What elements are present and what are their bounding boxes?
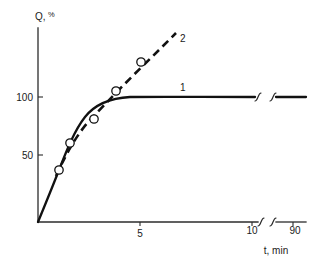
data-point-marker [66,139,74,147]
y-tick-label-50: 50 [22,150,34,161]
curve-1-label: 1 [180,82,186,93]
data-point-marker [112,87,120,95]
y-axis-title: Q, [35,11,46,22]
y-axis-unit: % [48,10,55,19]
x-axis-break-left-icon [258,218,264,226]
curve-1-path [38,97,255,222]
x-tick-label-10: 10 [246,225,258,236]
y-tick-label-100: 100 [16,92,33,103]
x-axis-break-right-icon [270,218,276,226]
curve-2-path [56,33,176,176]
curve-2-label: 2 [180,33,186,44]
chart-svg: Q, % 100 50 5 10 90 t, min 1 2 [0,0,327,264]
x-axis-title: t, min [264,245,288,256]
data-point-marker [55,166,63,174]
x-tick-label-90: 90 [289,225,301,236]
data-point-marker [90,115,98,123]
data-point-marker [137,58,145,66]
x-tick-label-5: 5 [137,228,143,239]
chart-figure: Q, % 100 50 5 10 90 t, min 1 2 [0,0,327,264]
